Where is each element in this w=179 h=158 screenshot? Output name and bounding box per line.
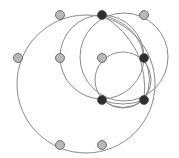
node-K-light (98, 141, 107, 150)
node-B-dark (98, 11, 107, 20)
arc-B-I-inner (102, 15, 145, 100)
node-D-light (14, 54, 23, 63)
node-F-light (98, 54, 107, 63)
node-H-dark (98, 96, 107, 105)
node-E-light (56, 54, 65, 63)
circles-layer (17, 13, 168, 153)
node-G-dark (140, 54, 149, 63)
node-C-light (140, 11, 149, 20)
node-A-light (56, 11, 65, 20)
node-J-light (56, 141, 65, 150)
node-I-dark (140, 96, 149, 105)
circle-diagram (0, 0, 179, 158)
